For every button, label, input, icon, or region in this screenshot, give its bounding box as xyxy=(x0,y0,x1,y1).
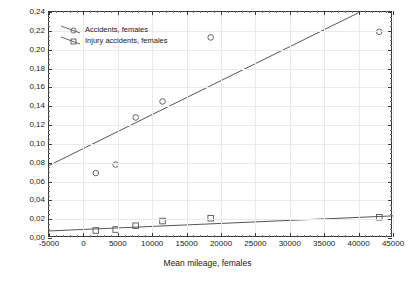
legend-label-injury-accidents: Injury accidents, females xyxy=(85,35,168,46)
axis-tick-x-minor xyxy=(228,235,229,237)
axis-tick-y-minor xyxy=(390,233,392,234)
axis-tick-x-minor xyxy=(180,11,181,13)
axis-tick-x-minor xyxy=(338,235,339,237)
y-tick-label: 0,18 xyxy=(29,65,45,73)
axis-tick-x-minor xyxy=(365,11,366,13)
legend-item-injury-accidents: Injury accidents, females xyxy=(60,35,168,46)
y-tick-label: 0,10 xyxy=(29,140,45,148)
gridline-horizontal xyxy=(49,144,391,145)
axis-tick-x-minor xyxy=(235,235,236,237)
axis-tick-y xyxy=(388,31,392,32)
gridline-horizontal xyxy=(49,182,391,183)
axis-tick-x xyxy=(221,11,222,15)
axis-tick-x-minor xyxy=(104,235,105,237)
axis-tick-x-minor xyxy=(276,235,277,237)
axis-tick-y-minor xyxy=(48,21,50,22)
axis-tick-x-minor xyxy=(386,235,387,237)
axis-tick-x-minor xyxy=(283,235,284,237)
axis-tick-x xyxy=(393,11,394,15)
data-point-circle xyxy=(208,35,214,41)
axis-tick-y-minor xyxy=(48,120,50,121)
y-tick-label: 0,14 xyxy=(29,102,45,110)
axis-tick-x-minor xyxy=(249,235,250,237)
axis-tick-x-minor xyxy=(352,11,353,13)
y-tick-label: 0,02 xyxy=(29,215,45,223)
axis-tick-x xyxy=(152,11,153,15)
axis-tick-y-minor xyxy=(48,196,50,197)
x-tick-label: 15000 xyxy=(175,240,197,248)
axis-tick-x-minor xyxy=(132,235,133,237)
data-point-circle xyxy=(133,115,139,121)
axis-tick-x-minor xyxy=(386,11,387,13)
x-axis-title: Mean mileage, females xyxy=(0,258,415,268)
y-tick-label: 0,16 xyxy=(29,83,45,91)
axis-tick-x xyxy=(290,11,291,15)
axis-tick-y xyxy=(48,238,52,239)
axis-tick-y xyxy=(48,31,52,32)
axis-tick-x-minor xyxy=(365,235,366,237)
axis-tick-x-minor xyxy=(159,11,160,13)
axis-tick-y-minor xyxy=(390,177,392,178)
axis-tick-x xyxy=(187,11,188,15)
axis-tick-y-minor xyxy=(390,21,392,22)
axis-tick-y xyxy=(388,50,392,51)
axis-tick-x-minor xyxy=(262,235,263,237)
y-tick-label: 0,00 xyxy=(29,234,45,242)
axis-tick-y-minor xyxy=(48,186,50,187)
axis-tick-x-minor xyxy=(77,11,78,13)
axis-tick-y xyxy=(48,200,52,201)
axis-tick-y xyxy=(48,182,52,183)
axis-tick-y xyxy=(388,69,392,70)
axis-tick-y-minor xyxy=(390,229,392,230)
axis-tick-y-minor xyxy=(390,17,392,18)
axis-tick-x-minor xyxy=(276,11,277,13)
y-tick-label: 0,06 xyxy=(29,178,45,186)
axis-tick-y xyxy=(48,50,52,51)
axis-tick-x-minor xyxy=(207,235,208,237)
axis-tick-x xyxy=(359,11,360,15)
axis-tick-y-minor xyxy=(48,26,50,27)
axis-tick-x-minor xyxy=(77,235,78,237)
axis-tick-y-minor xyxy=(48,45,50,46)
data-point-circle xyxy=(93,170,99,176)
axis-tick-x-minor xyxy=(207,11,208,13)
axis-tick-x-minor xyxy=(90,11,91,13)
x-tick-label: 35000 xyxy=(313,240,335,248)
x-tick-label: 20000 xyxy=(210,240,232,248)
axis-tick-y xyxy=(388,200,392,201)
axis-tick-y-minor xyxy=(48,101,50,102)
axis-tick-y-minor xyxy=(390,186,392,187)
axis-tick-x-minor xyxy=(297,235,298,237)
axis-tick-x-minor xyxy=(228,11,229,13)
axis-tick-y-minor xyxy=(390,97,392,98)
axis-tick-y xyxy=(388,238,392,239)
axis-tick-x xyxy=(255,11,256,15)
axis-tick-x-minor xyxy=(379,11,380,13)
axis-tick-x xyxy=(118,233,119,237)
axis-tick-x-minor xyxy=(145,11,146,13)
axis-tick-y-minor xyxy=(48,167,50,168)
axis-tick-y xyxy=(48,219,52,220)
gridline-horizontal xyxy=(49,87,391,88)
axis-tick-y-minor xyxy=(390,78,392,79)
legend-circle-marker-icon xyxy=(60,24,82,35)
axis-tick-y xyxy=(48,87,52,88)
y-tick-label: 0,22 xyxy=(29,27,45,35)
axis-tick-y-minor xyxy=(390,101,392,102)
axis-tick-x-minor xyxy=(379,235,380,237)
gridline-vertical xyxy=(359,12,360,236)
axis-tick-x-minor xyxy=(269,11,270,13)
x-tick-label: 0 xyxy=(81,240,85,248)
axis-tick-x-minor xyxy=(97,235,98,237)
x-tick-label: 40000 xyxy=(347,240,369,248)
axis-tick-x-minor xyxy=(372,235,373,237)
x-tick-label: 5000 xyxy=(109,240,127,248)
axis-tick-x xyxy=(255,233,256,237)
axis-tick-y-minor xyxy=(390,134,392,135)
axis-tick-x-minor xyxy=(283,11,284,13)
axis-tick-x-minor xyxy=(214,235,215,237)
axis-tick-x-minor xyxy=(193,11,194,13)
axis-tick-y-minor xyxy=(48,158,50,159)
axis-tick-y-minor xyxy=(48,83,50,84)
axis-tick-y-minor xyxy=(390,120,392,121)
